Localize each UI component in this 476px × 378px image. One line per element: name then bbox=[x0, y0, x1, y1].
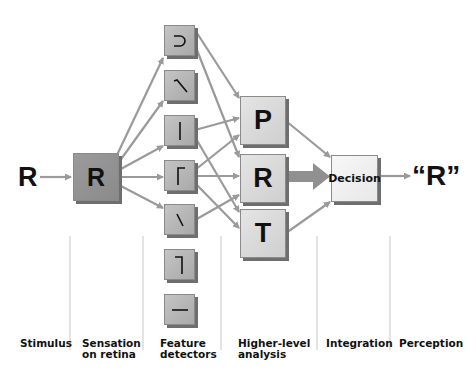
stage-label-stimulus: Stimulus bbox=[20, 338, 72, 349]
feature-detector-vertical bbox=[164, 115, 195, 146]
feature-detector-horizontal bbox=[164, 294, 195, 325]
higher-level-box-p: P bbox=[240, 96, 286, 145]
stage-label-integration: Integration bbox=[326, 338, 393, 349]
diagram-canvas bbox=[0, 0, 476, 378]
letter-r: R bbox=[253, 163, 273, 194]
perception-output: “R” bbox=[412, 160, 460, 192]
higher-level-box-t: T bbox=[240, 209, 286, 258]
decision-label: Decision bbox=[328, 172, 381, 185]
diagonal-line-icon bbox=[170, 76, 190, 96]
stage-dividers bbox=[70, 236, 390, 350]
letter-t: T bbox=[255, 218, 272, 249]
stimulus-letter: R bbox=[18, 162, 38, 193]
feature-detector-diagonal-short bbox=[164, 204, 195, 235]
stage-label-perception: Perception bbox=[399, 338, 463, 349]
feature-detector-corner-top-right bbox=[164, 249, 195, 280]
letter-p: P bbox=[254, 105, 272, 136]
corner-top-right-icon bbox=[170, 254, 190, 276]
horizontal-line-icon bbox=[169, 300, 191, 320]
higher-level-box-r: R bbox=[240, 154, 286, 203]
strong-arrow bbox=[288, 163, 330, 190]
feature-detector-corner-top-left bbox=[164, 160, 195, 191]
feature-detector-curve bbox=[164, 25, 195, 56]
curve-icon bbox=[170, 31, 190, 51]
stage-label-feature-detectors: Feature detectors bbox=[160, 338, 217, 360]
stage-label-higher-level: Higher-level analysis bbox=[238, 338, 310, 360]
vertical-line-icon bbox=[170, 120, 190, 142]
short-diagonal-icon bbox=[170, 210, 190, 230]
retina-letter: R bbox=[87, 163, 105, 192]
stage-label-sensation: Sensation on retina bbox=[82, 338, 141, 360]
feature-detector-diagonal bbox=[164, 70, 195, 101]
corner-top-left-icon bbox=[170, 165, 190, 187]
connection-arrows bbox=[40, 30, 410, 233]
decision-box: Decision bbox=[331, 155, 378, 202]
retina-box: R bbox=[73, 153, 119, 201]
